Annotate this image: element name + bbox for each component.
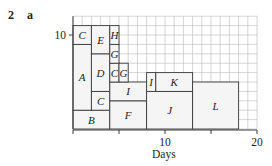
block-label: F	[124, 109, 132, 121]
activity-block-a: A	[73, 44, 91, 110]
activity-block-c: C	[110, 63, 119, 82]
activity-block-b: B	[73, 110, 110, 129]
activity-block-i: I	[147, 73, 156, 92]
block-label: H	[109, 29, 119, 41]
activity-block-g: G	[119, 63, 128, 82]
block-label: C	[79, 29, 87, 41]
activity-block-c: C	[91, 91, 109, 110]
x-tick-label: 10	[159, 136, 171, 148]
activity-block-i: I	[110, 82, 147, 101]
block-label: C	[111, 67, 119, 79]
block-label: L	[212, 100, 219, 112]
block-label: C	[97, 95, 105, 107]
x-tick-label: 20	[251, 136, 263, 148]
block-label: E	[96, 34, 104, 46]
activity-block-j: J	[147, 91, 193, 129]
y-tick-label: 10	[55, 29, 67, 41]
x-axis-label: Days	[152, 148, 176, 160]
block-label: A	[78, 71, 86, 83]
block-label: B	[88, 114, 95, 126]
activity-block-c: C	[73, 26, 91, 45]
resource-histogram-chart: BACCDEFICGGHJIKL 102010	[0, 0, 272, 166]
block-label: G	[110, 48, 118, 60]
activity-block-k: K	[156, 73, 193, 92]
block-label: G	[120, 67, 128, 79]
block-label: K	[170, 76, 179, 88]
block-label: D	[96, 67, 105, 79]
activity-block-f: F	[110, 101, 147, 129]
activity-block-g: G	[110, 44, 119, 63]
activity-block-e: E	[91, 26, 109, 54]
activity-block-h: H	[109, 26, 119, 45]
activity-block-l: L	[193, 82, 239, 129]
activity-block-d: D	[91, 54, 109, 92]
